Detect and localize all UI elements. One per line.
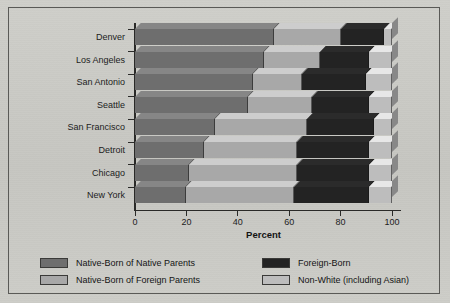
legend-label: Foreign-Born: [298, 256, 351, 270]
bar-row: [0, 29, 450, 45]
legend-label: Non-White (including Asian): [298, 273, 409, 287]
bar-segment: [135, 74, 253, 90]
bar-segment-front-face: [135, 74, 253, 90]
bar-segment-front-face: [312, 97, 369, 113]
bar-segment-front-face: [186, 187, 294, 203]
bar-segment-top-face: [135, 23, 280, 29]
legend-color-swatch: [262, 258, 290, 268]
bar-segment: [135, 52, 264, 68]
bar-segment-front-face: [135, 142, 204, 158]
x-axis-tick: [186, 211, 187, 216]
bar-segment-front-face: [135, 165, 189, 181]
bar-segment: [248, 97, 312, 113]
bar-segment: [384, 29, 392, 45]
legend-color-swatch: [262, 275, 290, 285]
x-axis-tick: [237, 211, 238, 216]
bar-segment: [369, 165, 392, 181]
bar-segment: [135, 29, 274, 45]
bar-segment-top-face: [341, 23, 390, 29]
bar-segment-top-face: [320, 46, 375, 52]
bar-end-side-face: [392, 175, 398, 197]
bar-row: [0, 119, 450, 135]
bar-segment-front-face: [264, 52, 321, 68]
bar-segment: [135, 165, 189, 181]
bar-segment-top-face: [297, 159, 375, 165]
bar-segment-top-face: [264, 46, 326, 52]
bar-segment: [215, 119, 308, 135]
legend-label: Native-Born of Foreign Parents: [76, 273, 200, 287]
bar-segment-top-face: [135, 181, 192, 187]
legend-label: Native-Born of Native Parents: [76, 256, 195, 270]
bar-segment-top-face: [189, 159, 303, 165]
bar-segment: [297, 165, 369, 181]
x-axis-tick-label: 60: [274, 217, 304, 227]
bar-segment: [366, 74, 392, 90]
bar-segment: [135, 119, 215, 135]
bar-segment-top-face: [135, 68, 259, 74]
chart-legend: Native-Born of Native ParentsNative-Born…: [40, 256, 420, 292]
bar-row: [0, 165, 450, 181]
bar-end-side-face: [392, 17, 398, 39]
bar-segment-top-face: [135, 159, 195, 165]
bar-segment-front-face: [297, 165, 369, 181]
bar-segment: [135, 142, 204, 158]
bar-segment: [274, 29, 341, 45]
bar-segment-front-face: [204, 142, 297, 158]
bar-segment: [253, 74, 302, 90]
bar-segment-front-face: [253, 74, 302, 90]
bar-segment: [307, 119, 374, 135]
x-axis-line: [134, 210, 401, 212]
bar-segment-front-face: [297, 142, 369, 158]
bar-segment: [294, 187, 369, 203]
bar-segment-front-face: [135, 52, 264, 68]
legend-color-swatch: [40, 258, 68, 268]
bar-segment: [369, 97, 392, 113]
legend-color-swatch: [40, 275, 68, 285]
bar-segment: [320, 52, 369, 68]
bar-segment: [264, 52, 321, 68]
bar-segment-front-face: [369, 165, 392, 181]
bar-segment-front-face: [369, 142, 392, 158]
bar-segment-front-face: [320, 52, 369, 68]
bar-segment-top-face: [253, 68, 308, 74]
bar-segment-top-face: [135, 46, 269, 52]
bar-row: [0, 187, 450, 203]
bar-segment-front-face: [374, 119, 392, 135]
bar-segment: [369, 142, 392, 158]
x-axis-tick: [289, 211, 290, 216]
bar-segment-front-face: [302, 74, 366, 90]
x-axis-tick-label: 0: [120, 217, 150, 227]
bar-segment-top-face: [135, 136, 210, 142]
bar-segment-top-face: [307, 113, 380, 119]
x-axis-tick-label: 80: [326, 217, 356, 227]
bar-row: [0, 142, 450, 158]
bar-end-side-face: [392, 108, 398, 130]
bar-segment: [186, 187, 294, 203]
bar-segment: [204, 142, 297, 158]
bar-segment-top-face: [186, 181, 300, 187]
bar-segment-front-face: [369, 52, 392, 68]
bar-segment-top-face: [312, 91, 374, 97]
x-axis-tick: [392, 211, 393, 216]
bar-segment-front-face: [189, 165, 297, 181]
bar-segment-front-face: [369, 187, 392, 203]
bar-segment-front-face: [294, 187, 369, 203]
bar-segment: [312, 97, 369, 113]
bar-segment: [369, 52, 392, 68]
bar-row: [0, 52, 450, 68]
x-axis-tick-label: 100: [377, 217, 407, 227]
bar-segment: [135, 187, 186, 203]
bar-segment: [189, 165, 297, 181]
bar-segment-front-face: [369, 97, 392, 113]
bar-segment-front-face: [341, 29, 385, 45]
bar-segment-front-face: [248, 97, 312, 113]
bar-segment-front-face: [135, 119, 215, 135]
bar-end-side-face: [392, 130, 398, 152]
bar-row: [0, 97, 450, 113]
x-axis-tick-label: 20: [171, 217, 201, 227]
chart-figure: DenverLos AngelesSan AntonioSeattleSan F…: [0, 0, 450, 303]
bar-segment-front-face: [135, 29, 274, 45]
bar-end-side-face: [392, 62, 398, 84]
bar-segment: [302, 74, 366, 90]
bar-segment: [369, 187, 392, 203]
